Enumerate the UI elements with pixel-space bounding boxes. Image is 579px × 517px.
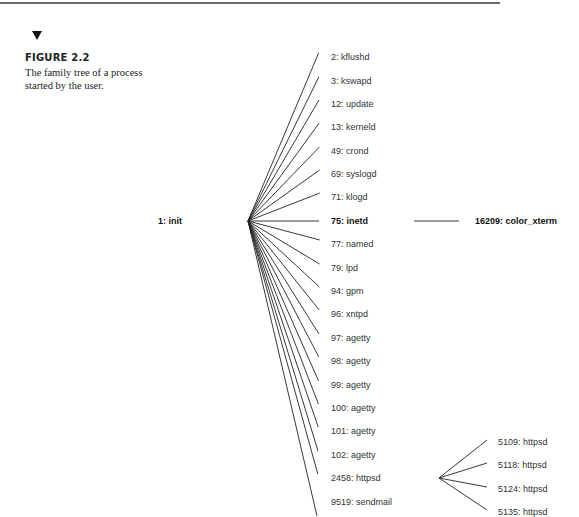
edge-init-child (248, 123, 319, 221)
node-child: 9519: sendmail (331, 497, 392, 507)
node-child: 100: agetty (331, 403, 376, 413)
edge-init-child (248, 147, 319, 221)
node-httpsd-child: 5135: httpsd (498, 507, 548, 517)
node-init: 1: init (158, 216, 182, 226)
node-httpsd-child: 5124: httpsd (498, 484, 548, 494)
edge-init-child (248, 221, 319, 381)
node-child: 79: lpd (331, 263, 358, 273)
node-child: 97: agetty (331, 333, 371, 343)
edge-init-child (248, 221, 318, 474)
node-child: 2458: httpsd (331, 473, 381, 483)
node-child: 13: kerneld (331, 122, 376, 132)
edge-httpsd-child (439, 440, 487, 478)
edge-init-child (248, 221, 319, 334)
node-child: 94: gpm (331, 286, 364, 296)
edge-init-child (248, 77, 319, 221)
edge-init-child (248, 193, 320, 221)
node-child: 2: kflushd (331, 52, 370, 62)
node-child: 12: update (331, 99, 374, 109)
node-child: 101: agetty (331, 426, 376, 436)
node-child: 3: kswapd (331, 76, 372, 86)
node-httpsd-child: 5118: httpsd (498, 460, 547, 470)
node-child: 96: xntpd (331, 309, 368, 319)
edge-init-child (248, 221, 318, 404)
node-child: 71: klogd (331, 192, 368, 202)
node-child: 98: agetty (331, 356, 371, 366)
edge-init-child (248, 221, 317, 516)
edge-httpsd-child (439, 463, 487, 478)
node-child: 102: agetty (331, 450, 376, 460)
edge-init-child (248, 221, 318, 427)
node-child: 99: agetty (331, 380, 371, 390)
node-child: 75: inetd (331, 216, 368, 226)
edge-init-child (248, 100, 319, 221)
node-child: 77: named (331, 239, 374, 249)
node-color-xterm: 16209: color_xterm (475, 216, 557, 226)
node-httpsd-child: 5109: httpsd (498, 437, 548, 447)
node-child: 69: syslogd (331, 169, 377, 179)
node-child: 49: crond (331, 146, 369, 156)
